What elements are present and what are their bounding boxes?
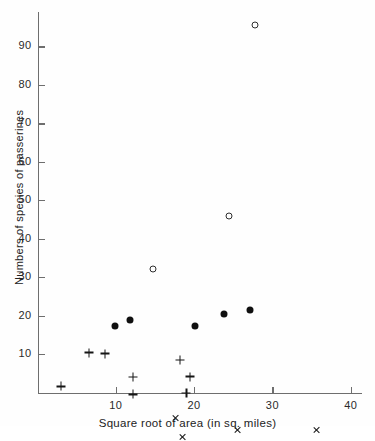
x-axis-title: Square root of area (in sq. miles) [0,417,375,429]
y-axis-tick-label: 80 [8,78,32,90]
data-point-open-circle [252,22,259,29]
data-points-layer [0,0,375,104]
y-axis-tick [39,239,45,240]
data-point-plus [85,348,94,357]
data-point-filled-circle [220,311,227,318]
x-axis-tick-label: 10 [101,399,131,411]
y-axis-tick [39,200,45,201]
data-point-cross [179,433,187,441]
y-axis-title: Numbers of species of passerines [13,110,25,285]
x-axis-tick-label: 30 [257,399,287,411]
data-point-open-circle [149,266,156,273]
y-axis-tick [39,123,45,124]
y-axis-tick [39,277,45,278]
data-point-filled-circle [247,306,254,313]
data-point-plus [56,382,65,391]
y-axis-tick-label: 90 [8,39,32,51]
y-axis-tick [39,85,45,86]
data-point-plus [129,373,138,382]
y-axis-tick-label: 10 [8,347,32,359]
y-axis-tick-label: 20 [8,309,32,321]
y-axis-tick [39,316,45,317]
y-axis-line [38,12,39,393]
x-axis-tick [116,387,117,393]
x-axis-tick [194,387,195,393]
x-axis-tick-label: 40 [336,399,366,411]
y-axis-tick [39,162,45,163]
data-point-plus [186,372,195,381]
y-axis-tick [39,354,45,355]
x-axis-tick-label: 20 [179,399,209,411]
data-point-filled-circle [126,317,133,324]
x-axis-line [38,393,363,394]
data-point-plus [100,349,109,358]
data-point-plus [182,388,191,397]
x-axis-tick [351,387,352,393]
y-axis-tick [39,46,45,47]
data-point-plus [176,355,185,364]
data-point-plus [129,390,138,399]
data-point-open-circle [226,213,233,220]
data-point-filled-circle [112,322,119,329]
x-axis-tick [272,387,273,393]
data-point-filled-circle [191,323,198,330]
